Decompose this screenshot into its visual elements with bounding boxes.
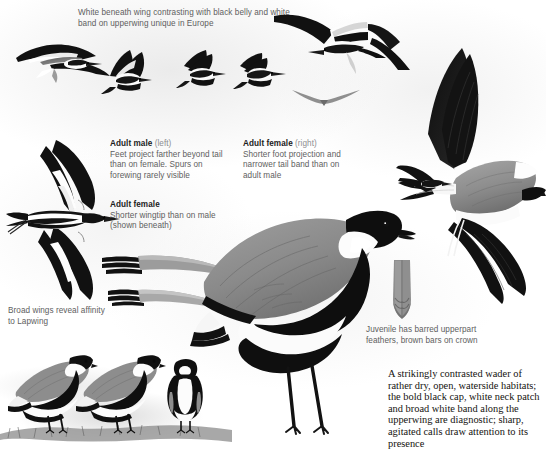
flying-bird-underwing-large-left (4, 130, 122, 310)
flying-bird-distant-silhouette (290, 88, 362, 108)
juvenile-feather-detail (388, 258, 416, 320)
caption-adult-female-right: Adult female (right) Shorter foot projec… (243, 139, 358, 181)
standing-adult-large (176, 186, 416, 436)
flying-bird-upperwing-mid-left (96, 46, 174, 98)
caption-top-flight-text: White beneath wing contrasting with blac… (78, 8, 290, 28)
standing-adult-right (76, 350, 162, 434)
species-description: A strikingly contrasted wader of rather … (388, 368, 540, 449)
caption-adult-male-qualifier: (left) (155, 139, 172, 148)
caption-adult-male-body: Feet project farther beyond tail than on… (110, 150, 223, 180)
caption-adult-female-right-qualifier: (right) (295, 139, 317, 148)
standing-adult-front (162, 358, 208, 434)
species-description-text: A strikingly contrasted wader of rather … (388, 368, 539, 449)
caption-adult-female-right-heading: Adult female (243, 139, 293, 148)
caption-adult-female-right-body: Shorter foot projection and narrower tai… (243, 150, 341, 180)
caption-top-flight: White beneath wing contrasting with blac… (78, 8, 293, 29)
bird-plate-page: White beneath wing contrasting with blac… (0, 0, 546, 450)
caption-adult-male: Adult male (left) Feet project farther b… (110, 139, 232, 181)
